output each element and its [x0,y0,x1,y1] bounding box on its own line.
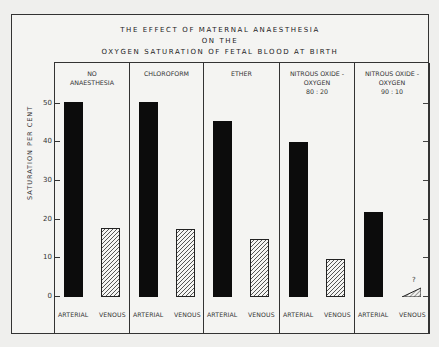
venous-label: VENOUS [248,311,275,318]
chart-title-line-3: OXYGEN SATURATION OF FETAL BLOOD AT BIRT… [11,48,429,56]
arterial-bar [64,102,83,297]
arterial-label: ARTERIAL [133,311,163,318]
venous-bar [250,239,269,297]
y-tick-label: 50 [36,99,52,107]
arterial-label: ARTERIAL [58,311,88,318]
category-label: ETHER [204,69,279,78]
y-tick-label: 10 [36,253,52,261]
arterial-label: ARTERIAL [358,311,388,318]
venous-bar [176,229,195,297]
venous-label: VENOUS [99,311,126,318]
category-panel: NITROUS OXIDE - OXYGEN 80 : 20ARTERIALVE… [280,63,355,334]
category-label: CHLOROFORM [130,69,203,78]
arterial-bar [289,142,308,297]
arterial-bar [364,212,383,297]
category-panel: NO ANAESTHESIAARTERIALVENOUS [55,63,130,334]
arterial-label: ARTERIAL [207,311,237,318]
y-tick-label: 0 [36,292,52,300]
category-label: NITROUS OXIDE - OXYGEN 90 : 10 [355,69,429,96]
y-tick-label: 30 [36,176,52,184]
arterial-bar [139,102,158,297]
arterial-label: ARTERIAL [283,311,313,318]
venous-bar [101,228,120,297]
y-tick-label: 40 [36,137,52,145]
venous-label: VENOUS [174,311,201,318]
arterial-bar [213,121,232,297]
chart-title-line-1: THE EFFECT OF MATERNAL ANAESTHESIA [11,26,429,34]
chart-title-line-2: ON THE [11,37,429,45]
venous-label: VENOUS [324,311,351,318]
plot-area: NO ANAESTHESIAARTERIALVENOUSCHLOROFORMAR… [54,62,429,334]
venous-label: VENOUS [399,311,426,318]
category-panel: ETHERARTERIALVENOUS [204,63,280,334]
y-tick-label: 20 [36,215,52,223]
y-axis-label: SATURATION PER CENT [26,106,34,200]
category-panel: NITROUS OXIDE - OXYGEN 90 : 10?ARTERIALV… [355,63,430,334]
venous-bar [326,259,345,297]
category-label: NITROUS OXIDE - OXYGEN 80 : 20 [280,69,354,96]
category-panel: CHLOROFORMARTERIALVENOUS [130,63,204,334]
venous-triangle-icon [402,287,421,297]
category-label: NO ANAESTHESIA [55,69,129,87]
uncertain-marker: ? [412,276,416,284]
